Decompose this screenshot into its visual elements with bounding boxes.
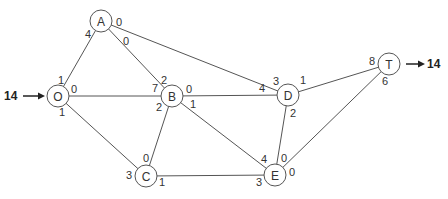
edges <box>58 21 389 176</box>
edge-B-C-label-at-B: 2 <box>156 101 162 113</box>
edge-D-T-label-at-T: 8 <box>369 55 375 67</box>
edge-O-A <box>58 21 101 96</box>
edge-O-A-label-at-O: 1 <box>58 74 64 86</box>
edge-O-C <box>58 96 146 176</box>
edge-B-E-label-at-E: 4 <box>261 153 267 165</box>
node-O[interactable]: O <box>47 85 69 107</box>
edge-B-D <box>172 95 288 96</box>
edge-O-C-label-at-C: 3 <box>126 169 132 181</box>
edge-B-C-label-at-C: 0 <box>143 152 149 164</box>
node-C-label: C <box>142 170 151 184</box>
edge-C-E-label-at-E: 3 <box>256 176 262 188</box>
edge-A-B-label-at-A: 0 <box>123 35 129 47</box>
edge-D-E-label-at-D: 2 <box>290 107 296 119</box>
flow-network-diagram: 14 14 O A B C D E <box>0 0 448 199</box>
edge-E-T <box>275 64 389 175</box>
node-B[interactable]: B <box>161 85 183 107</box>
edge-A-D-label-at-D: 3 <box>273 75 279 87</box>
edge-D-T-label-at-D: 1 <box>300 74 306 86</box>
sink-outflow-value: 14 <box>427 57 441 71</box>
edge-E-T-label-at-E: 0 <box>289 166 295 178</box>
node-A[interactable]: A <box>90 10 112 32</box>
edge-labels: 1 4 0 7 1 3 0 2 0 3 0 4 2 0 1 4 1 3 1 8 … <box>58 16 388 188</box>
node-C[interactable]: C <box>135 165 157 187</box>
edge-B-D-label-at-B: 0 <box>186 83 192 95</box>
nodes: O A B C D E T <box>47 10 400 187</box>
node-A-label: A <box>97 15 105 29</box>
node-D-label: D <box>284 89 293 103</box>
node-D[interactable]: D <box>277 84 299 106</box>
edge-O-B-label-at-O: 0 <box>71 83 77 95</box>
edge-B-D-label-at-D: 4 <box>259 82 265 94</box>
node-E[interactable]: E <box>264 164 286 186</box>
edge-O-B-label-at-B: 7 <box>152 82 158 94</box>
sink-arrowhead-icon <box>418 61 425 68</box>
sink-outflow: 14 <box>406 57 441 71</box>
edge-A-D-label-at-A: 0 <box>116 16 122 28</box>
node-T-label: T <box>385 58 393 72</box>
node-B-label: B <box>168 90 176 104</box>
edge-D-E-label-at-E: 0 <box>281 152 287 164</box>
edge-B-E-label-at-B: 1 <box>190 98 196 110</box>
edge-O-A-label-at-A: 4 <box>85 28 91 40</box>
edge-O-C-label-at-O: 1 <box>59 106 65 118</box>
edge-B-E <box>172 96 275 175</box>
node-E-label: E <box>271 169 279 183</box>
source-arrowhead-icon <box>38 93 45 100</box>
source-inflow-value: 14 <box>4 89 18 103</box>
edge-E-T-label-at-T: 6 <box>382 75 388 87</box>
node-T[interactable]: T <box>378 53 400 75</box>
source-inflow: 14 <box>4 89 45 103</box>
node-O-label: O <box>53 90 62 104</box>
edge-C-E-label-at-C: 1 <box>159 176 165 188</box>
edge-A-B-label-at-B: 2 <box>161 74 167 86</box>
